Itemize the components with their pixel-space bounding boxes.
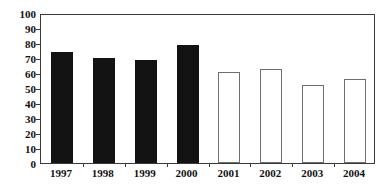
- x-axis-category-label: 1997: [40, 168, 82, 179]
- x-axis-category-label: 2001: [208, 168, 250, 179]
- y-axis-tick-label: 0: [31, 158, 41, 169]
- bar-slot: [167, 15, 209, 163]
- x-axis-category-label: 1998: [82, 168, 124, 179]
- x-axis-tick-mark: [250, 163, 251, 167]
- plot-area: [40, 14, 375, 164]
- bar-slot: [209, 15, 251, 163]
- bar-slot: [125, 15, 167, 163]
- x-axis-tick-mark: [209, 163, 210, 167]
- x-axis-category-label: 2000: [166, 168, 208, 179]
- bar-slot: [41, 15, 83, 163]
- bar[interactable]: [135, 60, 157, 164]
- x-axis-category-label: 1999: [124, 168, 166, 179]
- bar[interactable]: [177, 45, 199, 164]
- bar-slot: [83, 15, 125, 163]
- bar[interactable]: [51, 52, 73, 163]
- bar[interactable]: [344, 79, 366, 163]
- bar-slot: [292, 15, 334, 163]
- bar-slot: [334, 15, 376, 163]
- bar[interactable]: [218, 72, 240, 164]
- x-axis-tick-mark: [334, 163, 335, 167]
- bar[interactable]: [93, 58, 115, 163]
- x-axis-category-label: 2002: [249, 168, 291, 179]
- x-axis-tick-mark: [167, 163, 168, 167]
- bar-slot: [250, 15, 292, 163]
- x-axis-tick-mark: [125, 163, 126, 167]
- x-axis-tick-mark: [292, 163, 293, 167]
- x-axis-tick-mark: [83, 163, 84, 167]
- x-axis-category-label: 2004: [333, 168, 375, 179]
- bar[interactable]: [302, 85, 324, 163]
- bar[interactable]: [260, 69, 282, 164]
- x-axis: 19971998199920002001200220032004: [40, 168, 375, 188]
- y-axis: 0102030405060708090100: [0, 14, 40, 164]
- bar-chart: 0102030405060708090100 19971998199920002…: [0, 0, 386, 195]
- x-axis-category-label: 2003: [291, 168, 333, 179]
- y-axis-tick-label: 100: [20, 8, 41, 19]
